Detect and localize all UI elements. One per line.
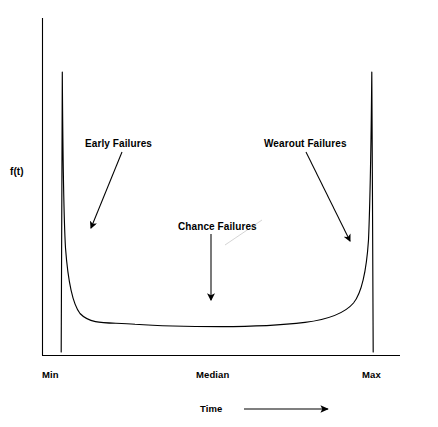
annotation-label-early-failures: Early Failures	[85, 138, 152, 150]
bathtub-curve-figure: f(t) Early Failures Chance Failures Wear…	[0, 0, 438, 427]
x-tick-label-max: Max	[362, 369, 381, 381]
annotation-label-chance-failures: Chance Failures	[178, 221, 257, 233]
y-axis-label: f(t)	[10, 166, 24, 178]
wearout-failures-arrow	[306, 152, 350, 241]
bathtub-curve-line	[61, 72, 373, 352]
x-axis-caption: Time	[200, 403, 222, 415]
early-failures-arrow	[91, 152, 122, 228]
x-tick-label-min: Min	[42, 369, 59, 381]
x-tick-label-median: Median	[196, 369, 229, 381]
plot-canvas	[0, 0, 438, 427]
annotation-label-wearout-failures: Wearout Failures	[264, 138, 347, 150]
